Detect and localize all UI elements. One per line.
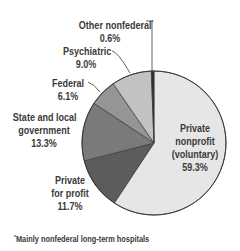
label-text: for profit	[47, 187, 93, 200]
label-text: State and local	[13, 111, 75, 124]
label-psychiatric: Psychiatric 9.0%	[63, 45, 109, 71]
label-private-for-profit: Private for profit 11.7%	[47, 174, 93, 213]
label-value: 0.6%	[79, 32, 141, 45]
leader-line-psychiatric	[112, 51, 130, 73]
label-text: Psychiatric	[63, 45, 109, 58]
label-text: government	[13, 124, 75, 137]
label-value: 6.1%	[52, 90, 85, 103]
footnote-text: Mainly nonfederal long-term hospitals	[16, 234, 149, 244]
leader-line-federal	[88, 82, 100, 92]
label-other-nonfederal: Other nonfederal* 0.6%	[79, 16, 141, 45]
footnote-mark: *	[152, 19, 154, 25]
label-private-nonprofit: Private nonprofit (voluntary) 59.3%	[166, 122, 223, 174]
label-value: 13.3%	[13, 137, 75, 150]
label-text: nonprofit	[166, 135, 223, 148]
label-value: 59.3%	[166, 161, 223, 174]
label-text: Private	[47, 174, 93, 187]
label-text: Federal	[52, 77, 85, 90]
label-state-local: State and local government 13.3%	[13, 111, 75, 150]
footnote: *Mainly nonfederal long-term hospitals	[14, 234, 149, 244]
label-text: Private	[166, 122, 223, 135]
label-federal: Federal 6.1%	[52, 77, 85, 103]
label-value: 11.7%	[47, 200, 93, 213]
label-text: Other nonfederal	[79, 19, 152, 31]
label-value: 9.0%	[63, 58, 109, 71]
label-text: (voluntary)	[166, 148, 223, 161]
